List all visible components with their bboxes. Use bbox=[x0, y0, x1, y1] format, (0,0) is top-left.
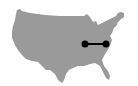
route-start-marker[interactable] bbox=[82, 41, 89, 48]
route-end-marker[interactable] bbox=[103, 41, 110, 48]
us-map-svg bbox=[0, 0, 138, 86]
us-map bbox=[0, 0, 138, 86]
